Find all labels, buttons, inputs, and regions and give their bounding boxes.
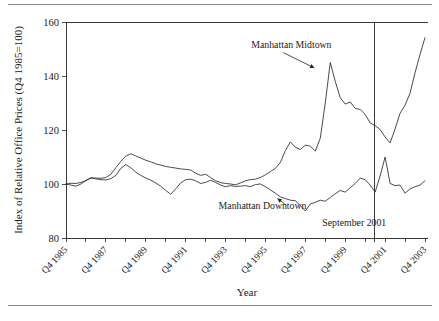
x-axis-tick-label: Q4 1987 [80,244,110,275]
y-axis-title: Index of Relative Office Prices (Q4 1985… [12,26,25,234]
x-axis-tick-label: Q4 1989 [119,244,149,275]
series-line-manhattan-midtown [66,38,425,185]
annotation-label-manhattan-midtown: Manhattan Midtown [251,39,331,50]
x-axis-title: Year [237,286,258,298]
x-axis-tick-label: Q4 1991 [159,244,189,275]
figure-container: 80100120140160 Q4 1985Q4 1987Q4 1989Q4 1… [0,0,439,321]
annotation-label-september-2001: September 2001 [322,217,386,228]
annotation-arrow [283,53,314,68]
annotation-label-manhattan-downtown: Manhattan Downtown [219,200,307,211]
y-axis-tick-label: 160 [43,17,59,28]
y-axis-tick-label: 80 [49,233,60,244]
series-group [66,38,425,211]
x-axis-tick-label: Q4 1997 [279,244,309,275]
annotations-group: Manhattan MidtownManhattan DowntownSepte… [219,39,387,228]
y-axis-tick-label: 100 [43,179,59,190]
x-axis-tick-label: Q4 2003 [399,244,429,275]
x-axis-tick-label: Q4 1985 [40,244,70,275]
y-axis-tick-label: 140 [43,71,59,82]
x-axis-tick-label: Q4 1999 [319,244,349,275]
y-axis-tick-labels: 80100120140160 [43,17,66,244]
x-axis-tick-label: Q4 2001 [359,244,389,275]
x-axis-tick-label: Q4 1993 [199,244,229,275]
line-chart: 80100120140160 Q4 1985Q4 1987Q4 1989Q4 1… [0,0,439,321]
x-axis-tick-label: Q4 1995 [239,244,269,275]
y-axis-tick-label: 120 [43,125,59,136]
x-axis-tick-labels: Q4 1985Q4 1987Q4 1989Q4 1991Q4 1993Q4 19… [40,238,429,275]
